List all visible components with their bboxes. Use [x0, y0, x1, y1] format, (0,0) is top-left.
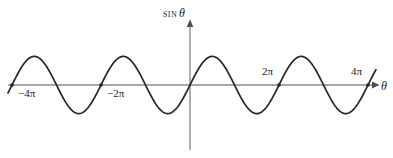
x-tick-label-pos-2pi: 2π [262, 66, 273, 77]
tick-marker-pos4pi [366, 83, 370, 87]
x-tick-label-neg-4pi: −4π [18, 88, 35, 99]
sine-wave-figure: sinθ θ −4π −2π 2π 4π [0, 0, 393, 158]
y-axis-arrowhead [187, 20, 194, 28]
plot-area [0, 0, 393, 158]
x-axis-arrowhead [372, 82, 380, 89]
y-axis-label-function: sin [163, 7, 177, 19]
tick-marker-neg4pi [10, 83, 14, 87]
tick-marker-pos2pi [277, 83, 281, 87]
tick-marker-neg2pi [99, 83, 103, 87]
x-tick-label-neg-2pi: −2π [107, 88, 124, 99]
x-tick-label-pos-4pi: 4π [351, 66, 362, 77]
x-axis-label: θ [381, 80, 387, 92]
y-axis-label: sinθ [163, 7, 185, 19]
y-axis-label-variable: θ [179, 6, 185, 20]
